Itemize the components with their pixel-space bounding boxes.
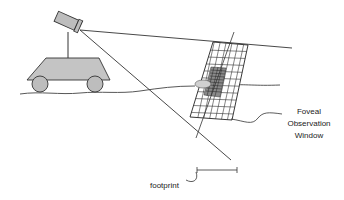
foveal-leader <box>231 113 282 123</box>
footprint-bar <box>197 167 237 173</box>
view-ray-upper <box>80 30 292 48</box>
wheel-rear <box>87 76 103 92</box>
footprint-leader <box>186 172 197 182</box>
diagram-canvas <box>0 0 344 200</box>
label-foveal: Foveal <box>279 106 339 118</box>
label-window: Window <box>279 130 339 142</box>
foveal-window-label: Foveal Observation Window <box>279 106 339 142</box>
observed-object <box>195 80 211 88</box>
camera-icon <box>54 10 83 32</box>
label-observation: Observation <box>279 118 339 130</box>
wheel-front <box>32 76 48 92</box>
footprint-label: footprint <box>150 180 179 192</box>
